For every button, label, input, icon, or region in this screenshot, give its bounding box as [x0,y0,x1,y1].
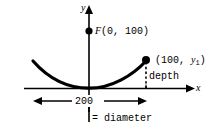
rim-point-close: ) [200,55,206,66]
focus-dot-icon [85,27,92,34]
rim-point-label: (100, y1) [155,55,206,67]
diameter-value-label: 200 [75,97,93,107]
arrow-left-icon [33,97,42,105]
arrow-right-icon [186,85,195,93]
focus-point-coords: (0, 100) [101,26,149,37]
x-axis-label: x [196,83,200,93]
y-axis-label: y [81,3,85,13]
arrow-right-icon [138,97,147,105]
rim-point-open: (100, [155,55,191,66]
focus-point-label: F(0, 100) [95,26,149,37]
diameter-note-label: = diameter [92,114,152,124]
parabola-diagram: y x F(0, 100) (100, y1) depth 200 = diam… [0,0,212,135]
arrow-up-icon [85,5,93,14]
depth-label: depth [149,72,179,82]
